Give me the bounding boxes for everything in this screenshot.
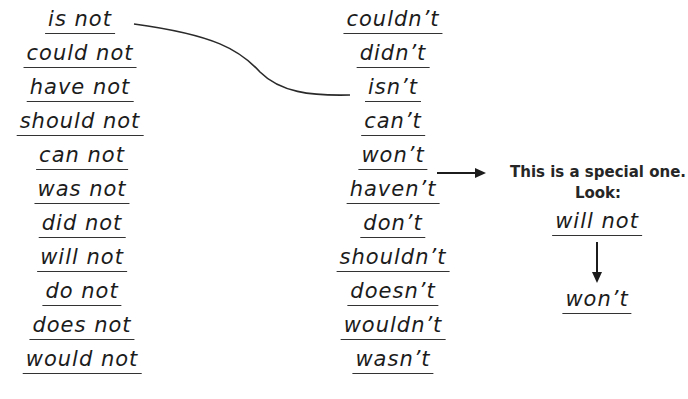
right-word-wont[interactable]: won’t <box>358 142 427 170</box>
match-line-is-not-to-isnt[interactable] <box>134 24 350 95</box>
right-word-shouldnt[interactable]: shouldn’t <box>337 244 450 272</box>
left-word-should-not[interactable]: should not <box>17 108 144 136</box>
right-word-couldnt[interactable]: couldn’t <box>343 6 442 34</box>
left-word-does-not[interactable]: does not <box>29 312 134 340</box>
right-word-doesnt[interactable]: doesn’t <box>347 278 438 306</box>
right-word-wouldnt[interactable]: wouldn’t <box>341 312 446 340</box>
left-word-have-not[interactable]: have not <box>27 74 134 102</box>
left-word-can-not[interactable]: can not <box>36 142 128 170</box>
left-word-will-not[interactable]: will not <box>37 244 127 272</box>
left-word-did-not[interactable]: did not <box>39 210 126 238</box>
special-note-line1: This is a special one. <box>510 162 686 182</box>
right-word-havent[interactable]: haven’t <box>347 176 440 204</box>
special-word-will-not: will not <box>552 208 642 236</box>
down-arrow-icon <box>592 242 602 283</box>
right-word-didnt[interactable]: didn’t <box>357 40 430 68</box>
left-word-is-not[interactable]: is not <box>45 6 115 34</box>
right-word-cant[interactable]: can’t <box>361 108 425 136</box>
left-word-do-not[interactable]: do not <box>42 278 121 306</box>
right-word-isnt[interactable]: isn’t <box>365 74 421 102</box>
right-arrow-icon <box>437 168 486 178</box>
left-word-would-not[interactable]: would not <box>23 346 142 374</box>
right-word-dont[interactable]: don’t <box>360 210 425 238</box>
special-word-wont: won’t <box>562 286 631 314</box>
special-note-line2: Look: <box>575 183 621 203</box>
left-word-was-not[interactable]: was not <box>34 176 129 204</box>
right-word-wasnt[interactable]: wasn’t <box>352 346 433 374</box>
left-word-could-not[interactable]: could not <box>24 40 137 68</box>
